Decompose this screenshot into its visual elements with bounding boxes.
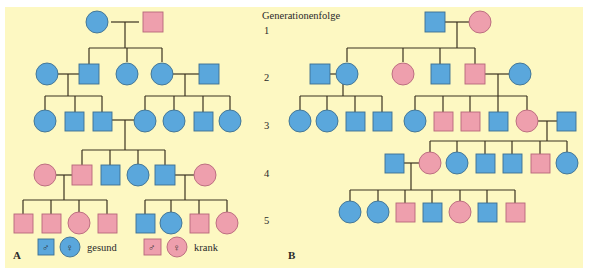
b-g5-male-healthy [423, 203, 442, 222]
a-g5-male-sick [98, 214, 117, 233]
b-g4-female-sick [419, 152, 441, 174]
b-g5-male-sick [506, 203, 525, 222]
b-g4-female-healthy [446, 152, 468, 174]
pedigree-a [14, 11, 241, 234]
b-g3-female-sick [516, 110, 538, 132]
a-g5-male-sick [14, 214, 33, 233]
b-g3-male-healthy [346, 112, 365, 131]
a-g3-male-healthy [194, 112, 213, 131]
a-g3-female-healthy [219, 110, 241, 132]
panel-label-a: A [13, 249, 21, 261]
legend: ♂ ♀ gesund ♂ ♀ krank [38, 237, 219, 257]
a-g4-female-sick [194, 164, 216, 186]
legend-healthy-female: ♀ [60, 237, 80, 257]
panel-label-b: B [288, 249, 296, 261]
b-g4-male-healthy [503, 154, 522, 173]
a-g1-male-sick [143, 12, 163, 32]
male-symbol-icon: ♂ [42, 242, 50, 253]
a-g5-male-sick [42, 214, 61, 233]
a-g3-female-healthy [134, 110, 156, 132]
a-g3-female-healthy [34, 110, 56, 132]
generation-label-3: 3 [264, 120, 269, 131]
a-g4-male-healthy [101, 165, 120, 185]
b-g5-female-healthy [339, 201, 361, 223]
a-g4-male-sick [72, 165, 92, 185]
a-g3-male-healthy [65, 112, 84, 131]
male-symbol-icon: ♂ [148, 242, 156, 253]
b-g5-male-healthy [478, 203, 497, 222]
pedigree-b [289, 11, 578, 223]
a-g3-male-healthy [93, 112, 112, 131]
generation-axis-title: Generationenfolge [262, 10, 340, 21]
b-g5-male-sick [396, 203, 415, 222]
b-g3-male-sick [461, 112, 480, 131]
b-g2-female-sick [392, 63, 414, 85]
b-g1-male-healthy [425, 12, 445, 32]
b-g2-male-healthy [431, 64, 450, 84]
b-g4-female-healthy [556, 152, 578, 174]
pedigree-diagram: .ln { stroke:#3b3320; stroke-width:1.2; … [0, 0, 590, 276]
b-g3-male-healthy [557, 112, 576, 131]
b-g3-female-healthy [404, 110, 426, 132]
b-g3-female-healthy [316, 110, 338, 132]
a-g2-male-healthy [79, 64, 99, 84]
a-g5-male-sick [190, 214, 209, 233]
a-g2-female-healthy [116, 63, 138, 85]
a-g4-male-healthy [155, 165, 175, 185]
legend-sick-label: krank [194, 242, 219, 253]
a-g2-male-healthy [199, 64, 219, 84]
a-g5-male-healthy [136, 214, 155, 233]
a-g3-female-healthy [163, 110, 185, 132]
b-g4-male-healthy [385, 154, 404, 173]
b-g5-female-sick [449, 201, 471, 223]
b-g2-female-healthy [509, 63, 531, 85]
female-symbol-icon: ♀ [66, 242, 74, 253]
b-g2-female-healthy [336, 63, 358, 85]
female-symbol-icon: ♀ [173, 242, 181, 253]
b-g4-male-sick [531, 154, 550, 173]
b-g3-male-healthy [373, 112, 392, 131]
legend-sick-male: ♂ [144, 239, 161, 255]
legend-healthy-label: gesund [87, 242, 117, 253]
b-g1-female-sick [469, 11, 491, 33]
a-g2-female-healthy [151, 63, 173, 85]
b-g5-female-healthy [367, 201, 389, 223]
b-g3-female-healthy [289, 110, 311, 132]
legend-healthy-male: ♂ [38, 239, 54, 255]
a-g1-female-healthy [86, 11, 108, 33]
generation-label-2: 2 [264, 72, 269, 83]
generation-label-1: 1 [264, 25, 269, 36]
b-g3-male-sick [434, 112, 453, 131]
b-g3-male-healthy [489, 112, 508, 131]
b-g4-male-healthy [476, 154, 495, 173]
a-g5-female-healthy [160, 212, 182, 234]
b-g2-male-sick [465, 64, 485, 84]
legend-sick-female: ♀ [167, 237, 187, 257]
a-g5-female-sick [216, 212, 238, 234]
a-g4-female-sick [34, 164, 56, 186]
a-g4-female-healthy [127, 164, 149, 186]
b-g2-male-healthy [310, 64, 330, 84]
generation-label-5: 5 [264, 215, 269, 226]
a-g2-female-healthy [36, 63, 58, 85]
generation-label-4: 4 [264, 168, 270, 179]
a-g5-female-sick [68, 212, 90, 234]
